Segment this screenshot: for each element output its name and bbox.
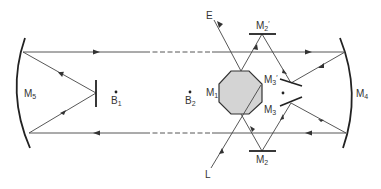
label-e: E [206,10,213,21]
flat-mirror-m3 [280,97,302,106]
label-m3: M3 [264,104,276,116]
bottom-beam [29,131,346,136]
label-m1: M1 [206,87,218,99]
label-m4: M4 [356,88,368,100]
flat-mirror-m3-prime [280,79,302,86]
label-m2: M2 [256,154,268,166]
top-beam [23,50,345,55]
label-m5: M5 [24,88,36,100]
optical-diagram: M5 B1 B2 M1 M2′ M3′ M3 M2 M4 E L [0,0,381,189]
label-l: L [205,169,211,180]
label-m2-prime: M2′ [256,20,270,32]
focal-point [282,92,285,95]
rotating-octagon-mirror-m1 [219,71,262,114]
point-b2 [189,91,192,94]
lower-relay-rays [241,103,346,151]
label-m3-prime: M3′ [264,74,278,86]
label-b1: B1 [111,95,122,107]
curved-mirror-m4 [340,38,352,148]
point-b1 [115,91,118,94]
upper-relay-rays [241,34,345,83]
label-b2: B2 [185,95,196,107]
